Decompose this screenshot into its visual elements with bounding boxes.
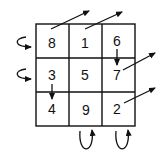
cell-r2c1: 3 bbox=[48, 67, 56, 83]
curved-arrow-icon bbox=[17, 37, 31, 47]
diagonal-arrow-icon bbox=[51, 11, 89, 29]
cell-r3c3: 2 bbox=[113, 101, 121, 117]
cell-r3c1: 4 bbox=[48, 101, 56, 117]
curved-arrow-icon bbox=[17, 69, 31, 79]
cell-r3c2: 9 bbox=[82, 102, 90, 118]
magic-square-diagram: 8 1 6 3 5 7 4 9 2 bbox=[0, 0, 162, 157]
cell-r1c1: 8 bbox=[48, 35, 56, 51]
diagonal-arrow-icon bbox=[123, 53, 155, 70]
curved-arrow-icon bbox=[116, 130, 129, 149]
cell-numbers: 8 1 6 3 5 7 4 9 2 bbox=[48, 33, 121, 118]
cell-r1c3: 6 bbox=[113, 33, 121, 49]
diagonal-arrow-icon bbox=[124, 88, 155, 103]
curved-arrow-icon bbox=[80, 130, 93, 149]
diagonal-arrow-icon bbox=[85, 12, 122, 29]
cell-r2c3: 7 bbox=[113, 67, 121, 83]
cell-r2c2: 5 bbox=[81, 67, 89, 83]
cell-r1c2: 1 bbox=[81, 35, 89, 51]
